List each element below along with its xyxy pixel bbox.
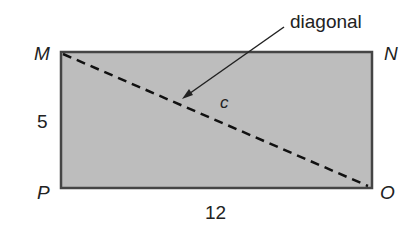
vertex-p-label: P	[37, 183, 50, 202]
rectangle-diagram	[0, 0, 408, 233]
vertex-n-label: N	[384, 44, 398, 63]
side-left-length: 5	[37, 112, 48, 131]
callout-label: diagonal	[290, 12, 362, 31]
diagonal-length-label: c	[220, 94, 229, 111]
vertex-m-label: M	[34, 44, 50, 63]
side-bottom-length: 12	[205, 203, 226, 222]
vertex-o-label: O	[380, 183, 395, 202]
